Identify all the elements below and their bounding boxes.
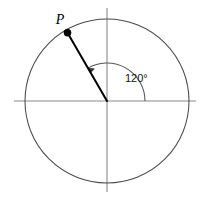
figure-container: P 120°	[0, 0, 204, 199]
angle-label: 120°	[125, 72, 148, 84]
point-p-marker	[64, 29, 71, 36]
radius-line	[68, 33, 108, 101]
point-p-label: P	[55, 12, 65, 27]
unit-circle-diagram: P 120°	[0, 0, 204, 199]
